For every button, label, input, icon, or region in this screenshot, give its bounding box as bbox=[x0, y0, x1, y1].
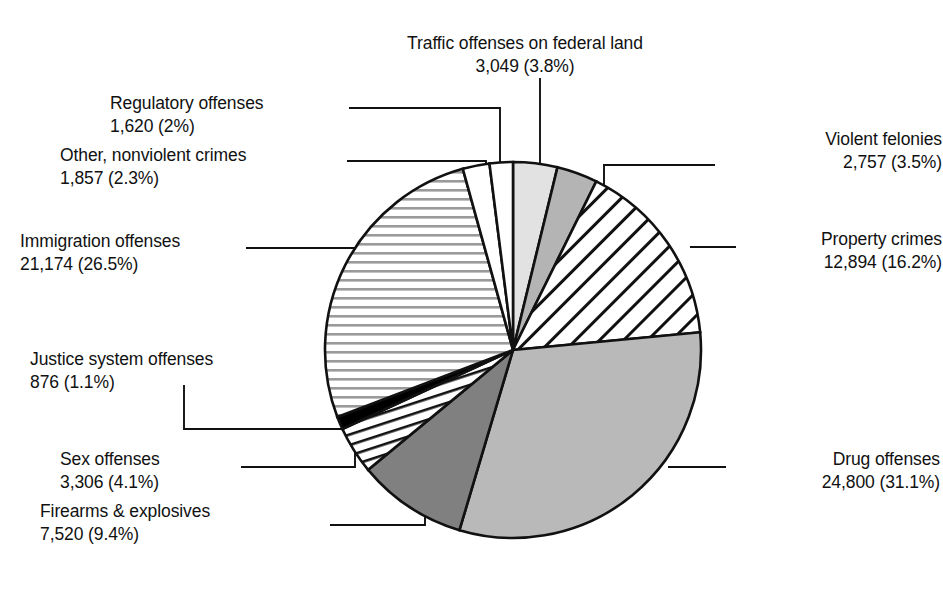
label-other-nonviolent-crimes: Other, nonviolent crimes 1,857 (2.3%) bbox=[60, 144, 420, 190]
label-firearms-explosives-stat: 7,520 (9.4%) bbox=[40, 523, 380, 546]
label-violent-felonies-name: Violent felonies bbox=[722, 128, 942, 151]
label-property-crimes: Property crimes 12,894 (16.2%) bbox=[742, 228, 942, 274]
label-immigration-offenses: Immigration offenses 21,174 (26.5%) bbox=[20, 230, 350, 276]
label-immigration-offenses-stat: 21,174 (26.5%) bbox=[20, 253, 350, 276]
label-sex-offenses-stat: 3,306 (4.1%) bbox=[60, 471, 370, 494]
label-regulatory-offenses-name: Regulatory offenses bbox=[110, 92, 420, 115]
label-regulatory-offenses-stat: 1,620 (2%) bbox=[110, 115, 420, 138]
label-traffic-offenses-name: Traffic offenses on federal land bbox=[360, 32, 690, 55]
label-property-crimes-stat: 12,894 (16.2%) bbox=[742, 251, 942, 274]
label-violent-felonies-stat: 2,757 (3.5%) bbox=[722, 151, 942, 174]
label-violent-felonies: Violent felonies 2,757 (3.5%) bbox=[722, 128, 942, 174]
label-justice-system-offenses: Justice system offenses 876 (1.1%) bbox=[30, 348, 380, 394]
leader-violent bbox=[604, 165, 715, 190]
label-drug-offenses-name: Drug offenses bbox=[730, 448, 940, 471]
label-firearms-explosives-name: Firearms & explosives bbox=[40, 500, 380, 523]
label-property-crimes-name: Property crimes bbox=[742, 228, 942, 251]
label-sex-offenses-name: Sex offenses bbox=[60, 448, 370, 471]
label-justice-system-offenses-name: Justice system offenses bbox=[30, 348, 380, 371]
label-firearms-explosives: Firearms & explosives 7,520 (9.4%) bbox=[40, 500, 380, 546]
label-immigration-offenses-name: Immigration offenses bbox=[20, 230, 350, 253]
label-drug-offenses: Drug offenses 24,800 (31.1%) bbox=[730, 448, 940, 494]
label-sex-offenses: Sex offenses 3,306 (4.1%) bbox=[60, 448, 370, 494]
label-regulatory-offenses: Regulatory offenses 1,620 (2%) bbox=[110, 92, 420, 138]
label-other-nonviolent-crimes-stat: 1,857 (2.3%) bbox=[60, 167, 420, 190]
pie-slices bbox=[325, 162, 701, 538]
label-other-nonviolent-crimes-name: Other, nonviolent crimes bbox=[60, 144, 420, 167]
label-traffic-offenses-stat: 3,049 (3.8%) bbox=[360, 55, 690, 78]
pie-chart-figure: Traffic offenses on federal land 3,049 (… bbox=[0, 0, 943, 599]
label-traffic-offenses: Traffic offenses on federal land 3,049 (… bbox=[360, 32, 690, 78]
label-justice-system-offenses-stat: 876 (1.1%) bbox=[30, 371, 380, 394]
label-drug-offenses-stat: 24,800 (31.1%) bbox=[730, 471, 940, 494]
